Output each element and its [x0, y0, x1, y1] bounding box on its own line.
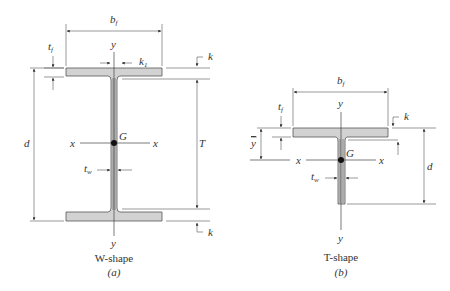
t-shape-section	[293, 128, 388, 204]
t-y-bottom-label: y	[337, 232, 343, 244]
w-shape-caption: W-shape	[95, 252, 134, 264]
w-k1-label: k1	[139, 55, 147, 69]
w-shape-sublabel: (a)	[108, 266, 121, 279]
w-y-top-label: y	[110, 38, 116, 50]
t-shape-group: y y x x G bf tf y k d	[250, 74, 436, 279]
t-shape-caption: T-shape	[324, 251, 359, 263]
w-x-left-label: x	[69, 137, 75, 149]
t-tf-label: tf	[278, 100, 284, 114]
w-k-top-label: k	[208, 50, 214, 62]
w-T-label: T	[199, 137, 206, 149]
t-x-left-label: x	[295, 154, 301, 166]
t-ybar-label: y	[250, 137, 256, 149]
steel-section-diagram: y y x x G bf tf d k1 k	[0, 0, 450, 291]
w-tw-label: tw	[84, 162, 92, 176]
t-bf-label: bf	[337, 74, 346, 88]
w-x-right-label: x	[152, 137, 158, 149]
figure-canvas: y y x x G bf tf d k1 k	[0, 0, 450, 291]
t-k-label: k	[404, 110, 410, 122]
t-tw-label: tw	[311, 170, 319, 184]
w-k-bottom-label: k	[208, 226, 214, 238]
w-shape-group: y y x x G bf tf d k1 k	[24, 13, 214, 279]
w-bf-label: bf	[110, 13, 119, 27]
w-y-bottom-label: y	[110, 237, 116, 249]
t-shape-sublabel: (b)	[335, 266, 348, 279]
t-centroid-label: G	[346, 147, 354, 159]
w-centroid-label: G	[119, 130, 127, 142]
w-tf-label: tf	[48, 40, 54, 54]
t-centroid-dot	[338, 157, 344, 163]
w-centroid-dot	[111, 140, 117, 146]
t-y-top-label: y	[337, 97, 343, 109]
w-d-label: d	[24, 137, 30, 149]
t-x-right-label: x	[378, 154, 384, 166]
t-d-label: d	[427, 160, 433, 172]
